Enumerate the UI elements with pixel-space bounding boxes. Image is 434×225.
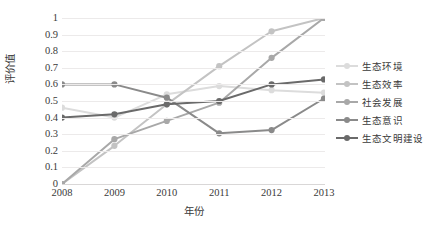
y-tick-label: 1 — [24, 13, 58, 24]
data-point — [269, 55, 275, 61]
legend-item[interactable]: 生态意识 — [336, 111, 434, 129]
legend-swatch — [336, 133, 358, 143]
x-tick-label: 2012 — [250, 187, 294, 200]
gridline — [62, 101, 325, 102]
series-5 — [62, 76, 325, 120]
gridline — [62, 167, 325, 168]
legend-item[interactable]: 社会发展 — [336, 93, 434, 111]
y-axis-tick-labels: 00.10.20.30.40.50.60.70.80.91 — [20, 18, 58, 184]
y-tick-label: 0.4 — [24, 112, 58, 123]
y-tick-label: 0.7 — [24, 63, 58, 74]
x-tick-label: 2010 — [145, 187, 189, 200]
line-chart: 00.10.20.30.40.50.60.70.80.91 2008200920… — [0, 0, 434, 225]
x-axis-line — [62, 184, 325, 185]
data-point — [164, 118, 170, 124]
x-tick-label: 2011 — [197, 187, 241, 200]
gridline — [62, 134, 325, 135]
legend-label: 生态意识 — [362, 113, 403, 127]
legend-label: 生态文明建设 — [362, 131, 423, 145]
data-point — [269, 127, 275, 133]
legend-marker-dot — [344, 63, 350, 69]
x-axis-title: 年份 — [62, 203, 325, 218]
legend-label: 社会发展 — [362, 95, 403, 109]
data-point — [321, 76, 325, 82]
y-tick-label: 0.3 — [24, 129, 58, 140]
y-axis-title: 评价值 — [2, 54, 17, 84]
x-axis-tick-labels: 200820092010201120122013 — [62, 187, 325, 203]
legend-label: 生态效率 — [362, 77, 403, 91]
legend-swatch — [336, 97, 358, 107]
legend-marker-dot — [344, 81, 350, 87]
gridline — [62, 151, 325, 152]
y-tick-label: 0.2 — [24, 146, 58, 157]
legend-marker-dot — [344, 117, 350, 123]
x-tick-label: 2013 — [302, 187, 346, 200]
data-point — [321, 90, 325, 96]
gridline — [62, 68, 325, 69]
legend-marker-dot — [344, 135, 350, 141]
gridline — [62, 118, 325, 119]
legend-item[interactable]: 生态文明建设 — [336, 129, 434, 147]
gridline — [62, 51, 325, 52]
gridline — [62, 18, 325, 19]
y-tick-label: 0.9 — [24, 29, 58, 40]
legend-item[interactable]: 生态环境 — [336, 57, 434, 75]
legend-label: 生态环境 — [362, 59, 403, 73]
data-point — [164, 101, 170, 107]
data-point — [111, 136, 117, 142]
x-tick-label: 2009 — [92, 187, 136, 200]
legend: 生态环境生态效率社会发展生态意识生态文明建设 — [336, 57, 434, 147]
legend-swatch — [336, 79, 358, 89]
data-point — [62, 105, 65, 111]
y-tick-label: 0.8 — [24, 46, 58, 57]
legend-swatch — [336, 61, 358, 71]
data-point — [269, 87, 275, 93]
y-tick-label: 0.6 — [24, 79, 58, 90]
legend-marker-dot — [344, 99, 350, 105]
data-point — [111, 111, 117, 117]
data-point — [269, 28, 275, 34]
y-tick-label: 0.1 — [24, 162, 58, 173]
plot-area — [62, 18, 325, 184]
y-tick-label: 0.5 — [24, 96, 58, 107]
legend-item[interactable]: 生态效率 — [336, 75, 434, 93]
legend-swatch — [336, 115, 358, 125]
x-tick-label: 2008 — [40, 187, 84, 200]
gridline — [62, 35, 325, 36]
gridline — [62, 84, 325, 85]
data-point — [164, 95, 170, 101]
data-point — [111, 143, 117, 149]
